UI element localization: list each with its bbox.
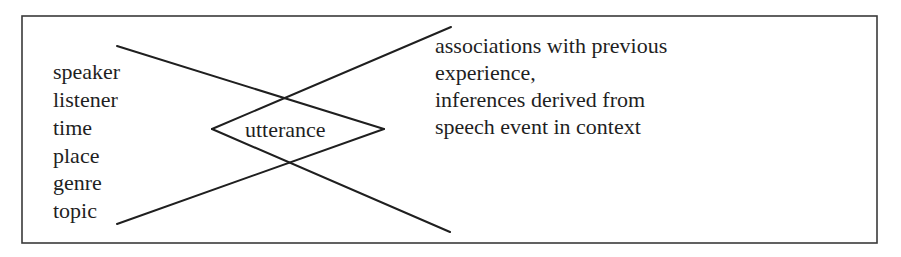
label-experience: experience, (435, 60, 536, 85)
label-topic: topic (53, 198, 97, 223)
label-inferences: inferences derived from (435, 87, 645, 112)
utterance-context-diagram: speaker listener time place genre topic … (0, 0, 901, 257)
center-label-utterance: utterance (245, 117, 326, 142)
label-speaker: speaker (53, 59, 121, 84)
label-genre: genre (53, 170, 102, 195)
label-place: place (53, 143, 99, 168)
label-speech-event: speech event in context (435, 114, 641, 139)
label-associations: associations with previous (435, 33, 667, 58)
label-listener: listener (53, 87, 118, 112)
label-time: time (53, 115, 92, 140)
